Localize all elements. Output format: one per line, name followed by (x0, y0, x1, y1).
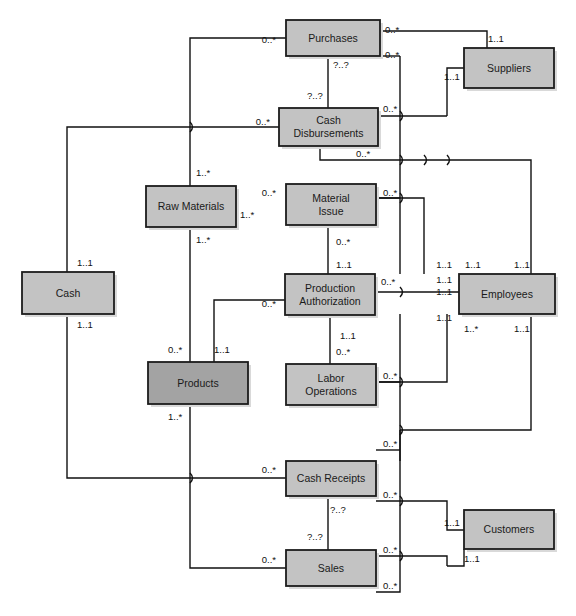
cardinality-label-c33: 0..* (336, 346, 351, 357)
cardinality-label-c38: 0..* (383, 489, 398, 500)
entity-label: Suppliers (487, 62, 531, 74)
cardinality-label-c20: 0..* (381, 276, 396, 287)
entity-box-labor_ops[interactable]: LaborOperations (286, 364, 379, 408)
cardinality-label-c10: 0..* (356, 148, 371, 159)
cardinality-label-c02: 0..* (385, 24, 400, 35)
entity-label: Disbursements (293, 127, 363, 139)
cardinality-label-c21: 0..* (262, 298, 277, 309)
cardinality-label-c17: 1..1 (77, 257, 93, 268)
cardinality-label-c30: 1..1 (340, 330, 356, 341)
cardinality-label-c07: ?..? (307, 90, 323, 101)
cardinality-label-c15: 1..* (196, 234, 211, 245)
cardinality-label-c11: 1..* (196, 167, 211, 178)
entity-label: Raw Materials (158, 200, 225, 212)
cardinality-label-c28: 1..* (464, 323, 479, 334)
entity-label: Cash Receipts (297, 472, 365, 484)
entity-label: Customers (484, 523, 535, 535)
cardinality-label-c26: 1..1 (465, 259, 481, 270)
cardinality-label-c35: 1..* (168, 411, 183, 422)
cardinality-label-c24: 1..1 (436, 286, 452, 297)
cardinality-label-c19: 1..1 (336, 259, 352, 270)
entity-label: Products (177, 377, 218, 389)
cardinality-label-c04: 0..* (385, 49, 400, 60)
cardinality-label-c39: ?..? (330, 504, 346, 515)
cardinality-label-c23: 1..1 (436, 274, 452, 285)
cardinality-label-c40: ?..? (307, 531, 323, 542)
entity-box-cash_receipts[interactable]: Cash Receipts (286, 461, 379, 499)
entity-box-cash_disb[interactable]: CashDisbursements (279, 108, 381, 149)
entity-box-purchases[interactable]: Purchases (286, 20, 383, 59)
entity-label: Cash (56, 287, 81, 299)
cardinality-label-c09: 0..* (383, 103, 398, 114)
cardinality-label-c25: 1..1 (436, 312, 452, 323)
cardinality-label-c22: 1..1 (436, 259, 452, 270)
cardinality-label-c45: 1..1 (464, 553, 480, 564)
entity-box-cash[interactable]: Cash (22, 272, 117, 317)
entity-box-customers[interactable]: Customers (464, 510, 557, 552)
cardinality-label-c34: 0..* (383, 370, 398, 381)
entity-label: Material (312, 192, 349, 204)
diagram-svg: PurchasesSuppliersCashDisbursementsRaw M… (0, 0, 576, 616)
cardinality-label-c37: 0..* (262, 464, 277, 475)
entity-box-suppliers[interactable]: Suppliers (464, 48, 557, 91)
er-diagram-canvas: PurchasesSuppliersCashDisbursementsRaw M… (0, 0, 576, 616)
entity-box-employees[interactable]: Employees (459, 274, 558, 317)
cardinality-label-c08: 0..* (256, 116, 271, 127)
cardinality-label-c03: 1..1 (488, 33, 504, 44)
entity-label: Operations (305, 385, 356, 397)
entity-label: Issue (318, 205, 343, 217)
entity-box-products[interactable]: Products (148, 362, 251, 407)
entity-label: Sales (318, 562, 344, 574)
connector-sales-employees (376, 430, 400, 592)
cardinality-label-c36: 0..* (383, 438, 398, 449)
entity-label: Production (305, 282, 355, 294)
cardinality-label-c42: 0..* (262, 554, 277, 565)
connector-products-sales (190, 404, 286, 568)
cardinality-label-c06: ?..? (333, 59, 349, 70)
entity-box-raw_materials[interactable]: Raw Materials (146, 186, 239, 230)
cardinality-label-c32: 1..1 (214, 344, 230, 355)
cardinality-label-c43: 0..* (383, 544, 398, 555)
cardinality-label-c05: 1..1 (444, 71, 460, 82)
entity-layer: PurchasesSuppliersCashDisbursementsRaw M… (22, 20, 558, 589)
entity-label: Purchases (308, 32, 358, 44)
cardinality-label-c44: 0..* (383, 580, 398, 591)
cardinality-label-c16: 0..* (336, 236, 351, 247)
connector-customers-sales (447, 549, 464, 566)
cardinality-label-c14: 0..* (383, 187, 398, 198)
connector-sales-customers-a (376, 556, 447, 566)
cardinality-label-c29: 1..1 (514, 323, 530, 334)
entity-box-sales[interactable]: Sales (286, 550, 379, 589)
entity-label: Labor (318, 372, 345, 384)
entity-label: Cash (316, 114, 341, 126)
cardinality-label-c41: 1..1 (444, 517, 460, 528)
connector-purchases-rawmaterials (190, 38, 286, 186)
cardinality-label-c12: 0..* (262, 187, 277, 198)
entity-label: Employees (481, 288, 533, 300)
cardinality-label-c31: 0..* (168, 344, 183, 355)
cardinality-label-c01: 0..* (262, 34, 277, 45)
entity-box-material_issue[interactable]: MaterialIssue (286, 184, 379, 228)
cardinality-label-c13: 1..* (240, 209, 255, 220)
cardinality-label-c27: 1..1 (514, 259, 530, 270)
entity-box-prod_auth[interactable]: ProductionAuthorization (285, 274, 378, 318)
cardinality-label-c18: 1..1 (77, 319, 93, 330)
entity-label: Authorization (299, 295, 360, 307)
